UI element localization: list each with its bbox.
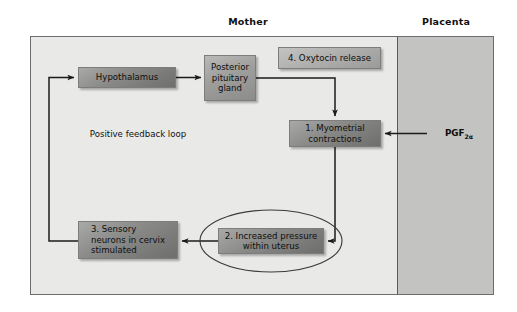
node-posterior-pituitary-gland[interactable]: Posterior pituitary gland xyxy=(204,55,256,101)
node-oxytocin-label: 4. Oxytocin release xyxy=(288,53,371,63)
node-myometrial-label: 1. Myometrial contractions xyxy=(305,123,364,144)
node-pituitary-label: Posterior pituitary gland xyxy=(211,62,249,93)
wire-myometrial-to-pressure xyxy=(328,147,335,241)
feedback-label-line2: feedback loop xyxy=(126,129,187,139)
node-sensory-neurons-in-cervix[interactable]: 3. Sensory neurons in cervix stimulated xyxy=(78,221,178,259)
wire-sensory-to-hypothalamus xyxy=(49,78,78,242)
node-sensory-label-line1: 3. Sensory xyxy=(91,224,165,234)
pgf-label-base: PGF xyxy=(445,128,465,138)
node-pressure-label-line1: 2. Increased pressure xyxy=(225,231,318,241)
placenta-region xyxy=(397,37,493,294)
node-pressure-label: 2. Increased pressure within uterus xyxy=(225,231,318,252)
node-pituitary-label-line1: Posterior xyxy=(211,62,249,72)
node-pituitary-label-line2: pituitary xyxy=(211,73,249,83)
diagram-canvas: Mother Placenta xyxy=(0,0,517,312)
node-myometrial-contractions[interactable]: 1. Myometrial contractions xyxy=(289,120,381,147)
node-increased-pressure-within-uterus[interactable]: 2. Increased pressure within uterus xyxy=(218,228,324,254)
wire-pituitary-to-myometrial xyxy=(256,78,335,116)
section-caption-placenta: Placenta xyxy=(400,16,492,27)
feedback-label-line1: Positive xyxy=(90,129,123,139)
positive-feedback-loop-label: Positive feedback loop xyxy=(83,129,193,140)
node-hypothalamus[interactable]: Hypothalamus xyxy=(78,67,176,88)
node-pituitary-label-line3: gland xyxy=(211,83,249,93)
node-sensory-label-line2: neurons in cervix xyxy=(91,235,165,245)
pgf-label-subscript: 2α xyxy=(465,133,474,140)
node-myometrial-label-line1: 1. Myometrial xyxy=(305,123,364,133)
section-caption-mother: Mother xyxy=(198,16,298,27)
node-myometrial-label-line2: contractions xyxy=(305,134,364,144)
node-oxytocin-release[interactable]: 4. Oxytocin release xyxy=(278,47,381,69)
node-hypothalamus-label: Hypothalamus xyxy=(96,72,158,82)
diagram-frame: Hypothalamus Posterior pituitary gland 4… xyxy=(30,36,494,295)
pgf2alpha-label: PGF2α xyxy=(429,128,489,140)
node-sensory-label-line3: stimulated xyxy=(91,245,165,255)
node-pressure-label-line2: within uterus xyxy=(225,241,318,251)
node-sensory-label: 3. Sensory neurons in cervix stimulated xyxy=(91,224,165,255)
